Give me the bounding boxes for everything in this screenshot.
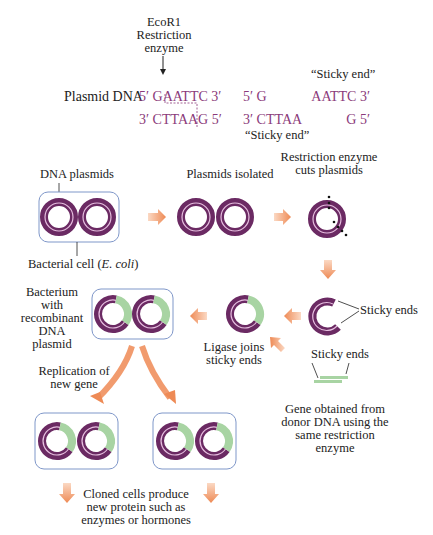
uncut-bottom-strand: 3′ CTTAAG 5′ — [139, 112, 222, 127]
arrow-right-icon — [274, 209, 291, 225]
svg-text:EcoR1: EcoR1 — [147, 15, 181, 29]
uncut-top-strand: 5′ GAATTC 3′ — [139, 89, 221, 104]
replication-label: Replication of new gene — [38, 364, 110, 391]
cut-right-top-strand: AATTC 3′ — [311, 89, 370, 104]
gene-fragment-icon — [314, 376, 348, 383]
sticky-end-label-top: “Sticky end” — [311, 67, 375, 81]
svg-text:sticky ends: sticky ends — [206, 353, 262, 367]
cut-left-bottom-strand: 3′ CTTAA — [243, 112, 303, 127]
arrow-down-icon — [203, 483, 219, 503]
ligase-label: Ligase joins sticky ends — [204, 340, 265, 367]
arrow-left-icon — [284, 308, 301, 324]
sticky-ends-plasmid-label: Sticky ends — [360, 303, 418, 317]
svg-text:Gene obtained from: Gene obtained from — [285, 402, 385, 416]
plasmid-icon — [312, 204, 342, 234]
svg-text:same restriction: same restriction — [295, 428, 375, 442]
enzyme-arrow-icon — [160, 56, 166, 75]
cut-plasmid-icon — [312, 301, 338, 331]
svg-text:enzymes or hormones: enzymes or hormones — [81, 513, 191, 527]
svg-text:cuts plasmids: cuts plasmids — [295, 163, 363, 177]
cloned-cell-left — [35, 413, 118, 469]
cloned-cell-right — [153, 413, 236, 469]
svg-text:recombinant: recombinant — [21, 311, 84, 325]
cut-left-top-strand: 5′ G — [243, 89, 267, 104]
arrow-diagonal-icon — [270, 337, 285, 352]
svg-text:Replication of: Replication of — [38, 364, 110, 378]
plasmid-icon — [220, 202, 250, 232]
pointer-line — [312, 363, 318, 378]
svg-text:plasmid: plasmid — [32, 337, 72, 351]
svg-text:enzyme: enzyme — [145, 41, 184, 55]
plasmids-isolated-label: Plasmids isolated — [186, 167, 274, 181]
sticky-ends-gene-label: Sticky ends — [311, 347, 369, 361]
svg-text:Restriction enzyme: Restriction enzyme — [281, 150, 378, 164]
arrow-right-icon — [148, 209, 166, 225]
gene-obtained-label: Gene obtained from donor DNA using the s… — [281, 402, 389, 455]
cloned-cells-label: Cloned cells produce new protein such as… — [81, 487, 191, 527]
svg-text:Bacterium: Bacterium — [26, 285, 78, 299]
plasmid-dna-label: Plasmid DNA — [64, 89, 144, 104]
svg-text:with: with — [41, 298, 64, 312]
svg-text:DNA: DNA — [38, 324, 65, 338]
pointer-line — [341, 311, 359, 323]
svg-text:new gene: new gene — [50, 377, 98, 391]
pointer-line — [338, 301, 359, 309]
svg-text:enzyme: enzyme — [316, 441, 355, 455]
branch-arrow-right-icon — [142, 346, 176, 404]
svg-text:Cloned cells produce: Cloned cells produce — [83, 487, 189, 501]
svg-text:Ligase joins: Ligase joins — [204, 340, 265, 354]
arrow-down-icon — [59, 483, 75, 503]
bacterial-cell-label: Bacterial cell (E. coli) — [28, 257, 138, 271]
arrow-left-icon — [190, 308, 207, 324]
recombinant-label: Bacterium with recombinant DNA plasmid — [21, 285, 84, 351]
plasmid-icon — [181, 202, 211, 232]
svg-text:Restriction: Restriction — [137, 28, 193, 42]
arrow-down-icon — [320, 260, 336, 279]
svg-text:new protein such as: new protein such as — [87, 500, 186, 514]
dna-plasmids-label: DNA plasmids — [40, 167, 114, 181]
recombinant-dna-diagram: EcoR1 Restriction enzyme Plasmid DNA 5′ … — [0, 0, 433, 535]
cut-right-bottom-strand: G 5′ — [346, 112, 370, 127]
svg-text:donor DNA using the: donor DNA using the — [281, 415, 389, 429]
pointer-line — [346, 363, 349, 374]
enzyme-label: EcoR1 Restriction enzyme — [137, 15, 193, 55]
recombinant-plasmid-icon — [230, 299, 260, 329]
sticky-end-label-bottom: “Sticky end” — [245, 128, 309, 142]
restriction-cuts-label: Restriction enzyme cuts plasmids — [281, 150, 378, 177]
